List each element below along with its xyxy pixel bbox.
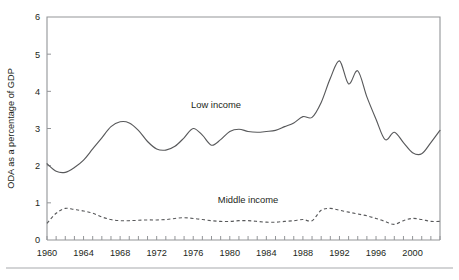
y-tick-label: 2 xyxy=(35,161,40,171)
x-tick-label: 2000 xyxy=(402,248,422,258)
y-tick-label: 4 xyxy=(35,87,40,97)
y-tick-label: 0 xyxy=(35,235,40,245)
x-tick-label: 1980 xyxy=(220,248,240,258)
y-tick-label: 1 xyxy=(35,198,40,208)
series-label-low-income: Low income xyxy=(191,99,241,110)
x-tick-label: 1984 xyxy=(256,248,276,258)
axis-frame xyxy=(47,17,440,240)
series-line-middle-income xyxy=(47,208,440,224)
x-tick-label: 1968 xyxy=(110,248,130,258)
x-tick-label: 1992 xyxy=(329,248,349,258)
y-tick-labels: 0123456 xyxy=(35,12,40,245)
x-tick-label: 1988 xyxy=(293,248,313,258)
y-axis-title: ODA as a percentage of GDP xyxy=(6,68,16,189)
plot-frame xyxy=(47,17,440,240)
chart-svg: 0123456 19601964196819721976198019841988… xyxy=(0,0,459,280)
x-tick-label: 1976 xyxy=(183,248,203,258)
x-tick-labels: 1960196419681972197619801984198819921996… xyxy=(37,248,423,258)
series-label-middle-income: Middle income xyxy=(218,194,278,205)
x-tick-label: 1960 xyxy=(37,248,57,258)
y-tick-marks xyxy=(47,54,51,203)
chart-figure: 0123456 19601964196819721976198019841988… xyxy=(0,0,459,280)
y-tick-label: 6 xyxy=(35,12,40,22)
series-line-low-income xyxy=(47,61,440,173)
x-tick-label: 1972 xyxy=(146,248,166,258)
x-tick-marks xyxy=(47,236,440,240)
x-tick-label: 1964 xyxy=(73,248,93,258)
x-tick-label: 1996 xyxy=(366,248,386,258)
y-tick-label: 5 xyxy=(35,50,40,60)
y-tick-label: 3 xyxy=(35,124,40,134)
